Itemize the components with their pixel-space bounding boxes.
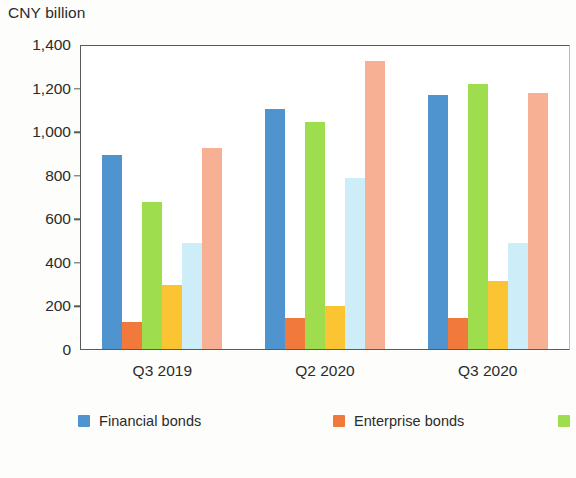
legend-item[interactable]: Enterprise bonds xyxy=(333,409,558,432)
legend-item-label: Enterprise bonds xyxy=(354,413,464,429)
bar xyxy=(182,243,202,349)
y-axis-tick-mark xyxy=(74,219,81,220)
bars-layer xyxy=(81,46,569,349)
bar xyxy=(285,318,305,349)
bar xyxy=(265,109,285,349)
legend-item-label: Financial bonds xyxy=(99,413,201,429)
y-axis-tick-mark xyxy=(74,131,81,132)
bar xyxy=(122,322,142,349)
bar xyxy=(508,243,528,349)
y-axis-tick-label: 1,200 xyxy=(0,80,80,98)
x-axis-tick-label: Q2 2020 xyxy=(295,362,354,380)
y-axis-tick-label: 800 xyxy=(0,167,80,185)
legend-item[interactable]: Financial bonds xyxy=(78,409,333,432)
y-axis-tick-mark xyxy=(74,262,81,263)
bar xyxy=(142,202,162,349)
bar xyxy=(102,155,122,349)
y-axis-tick-label: 1,400 xyxy=(0,36,80,54)
x-axis-tick-label: Q3 2020 xyxy=(458,362,517,380)
y-axis-tick-label: 400 xyxy=(0,254,80,272)
bar xyxy=(305,122,325,349)
legend-swatch-icon xyxy=(78,415,90,427)
bar xyxy=(325,306,345,349)
bar xyxy=(365,61,385,349)
bar-chart: CNY billion 02004006008001,0001,2001,400… xyxy=(0,0,576,478)
bar xyxy=(428,95,448,349)
y-axis-title: CNY billion xyxy=(8,4,86,22)
y-axis-tick-label: 200 xyxy=(0,297,80,315)
legend-swatch-icon xyxy=(558,415,570,427)
y-axis-tick-mark xyxy=(74,306,81,307)
y-axis-tick-label: 1,000 xyxy=(0,123,80,141)
bar xyxy=(468,84,488,349)
chart-legend: Financial bondsEnterprise bondsListed co… xyxy=(78,409,558,432)
y-axis-tick-label: 600 xyxy=(0,210,80,228)
legend-swatch-icon xyxy=(333,415,345,427)
y-axis-tick-label: 0 xyxy=(0,341,80,359)
bar xyxy=(448,318,468,349)
x-axis-tick-label: Q3 2019 xyxy=(133,362,192,380)
bar xyxy=(488,281,508,349)
y-axis-tick-mark xyxy=(74,88,81,89)
bar xyxy=(528,93,548,349)
bar xyxy=(162,285,182,349)
y-axis-tick-mark xyxy=(74,175,81,176)
legend-item[interactable]: Listed corporate bonds xyxy=(558,409,576,432)
bar xyxy=(345,178,365,349)
bar xyxy=(202,148,222,349)
